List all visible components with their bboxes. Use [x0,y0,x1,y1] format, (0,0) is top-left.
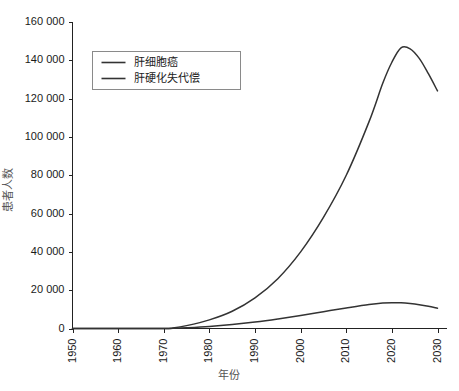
x-axis-ticks: 195019601970198019902000201020202030 [66,329,443,363]
legend-label-0: 肝细胞癌 [134,55,178,68]
x-tick-label: 1990 [248,339,260,363]
x-tick-label: 2010 [339,339,351,363]
line-chart: 020 00040 00060 00080 000100 000120 0001… [0,0,459,391]
y-tick-label: 0 [58,322,64,334]
y-tick-label: 160 000 [25,15,65,27]
y-tick-label: 120 000 [25,92,65,104]
y-tick-label: 40 000 [31,245,65,257]
y-tick-label: 80 000 [31,168,65,180]
x-tick-label: 1980 [202,339,214,363]
x-tick-label: 1960 [111,339,123,363]
chart-container: 020 00040 00060 00080 000100 000120 0001… [0,0,459,391]
x-tick-label: 1970 [157,339,169,363]
y-tick-label: 60 000 [31,207,65,219]
y-axis-ticks: 020 00040 00060 00080 000100 000120 0001… [25,15,73,334]
x-tick-label: 1950 [66,339,78,363]
x-axis-title: 年份 [218,368,240,381]
y-tick-label: 100 000 [25,130,65,142]
y-tick-label: 140 000 [25,53,65,65]
legend-label-1: 肝硬化失代偿 [134,71,200,84]
x-tick-label: 2030 [431,339,443,363]
x-tick-label: 2020 [385,339,397,363]
y-axis-title: 患者人数 [2,168,14,212]
series-line-1 [73,303,438,329]
x-tick-label: 2000 [294,339,306,363]
chart-legend: 肝细胞癌肝硬化失代偿 [93,52,241,90]
y-tick-label: 20 000 [31,283,65,295]
